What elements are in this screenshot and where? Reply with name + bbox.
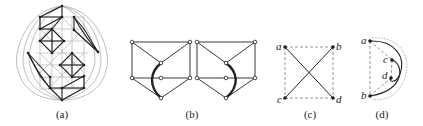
panel-d-graph	[368, 38, 407, 100]
figure-canvas: (a) (b)	[0, 0, 423, 126]
panel-c-vertex-a: a	[276, 40, 282, 52]
panel-b-right-graph	[197, 42, 255, 98]
panel-c-vertex-b: b	[336, 40, 342, 52]
panel-b-right-vertices	[195, 40, 257, 100]
panel-d-vertex-b: b	[361, 89, 367, 101]
panel-c-vertex-d: d	[336, 93, 342, 105]
panel-a-caption: (a)	[56, 108, 69, 121]
panel-b-left-vertices	[130, 40, 192, 100]
panel-b-caption: (b)	[186, 108, 199, 121]
panel-a-graph	[16, 5, 107, 102]
panel-c-caption: (c)	[304, 108, 317, 121]
panel-d-vertex-d: d	[382, 69, 388, 81]
panel-c-vertex-c: c	[277, 93, 282, 105]
panel-d-vertex-a: a	[361, 34, 367, 46]
panel-c-graph	[283, 45, 335, 100]
panel-d-caption: (d)	[376, 108, 389, 121]
panel-d-vertex-c: c	[383, 53, 388, 65]
panel-b-left-graph	[132, 42, 190, 98]
